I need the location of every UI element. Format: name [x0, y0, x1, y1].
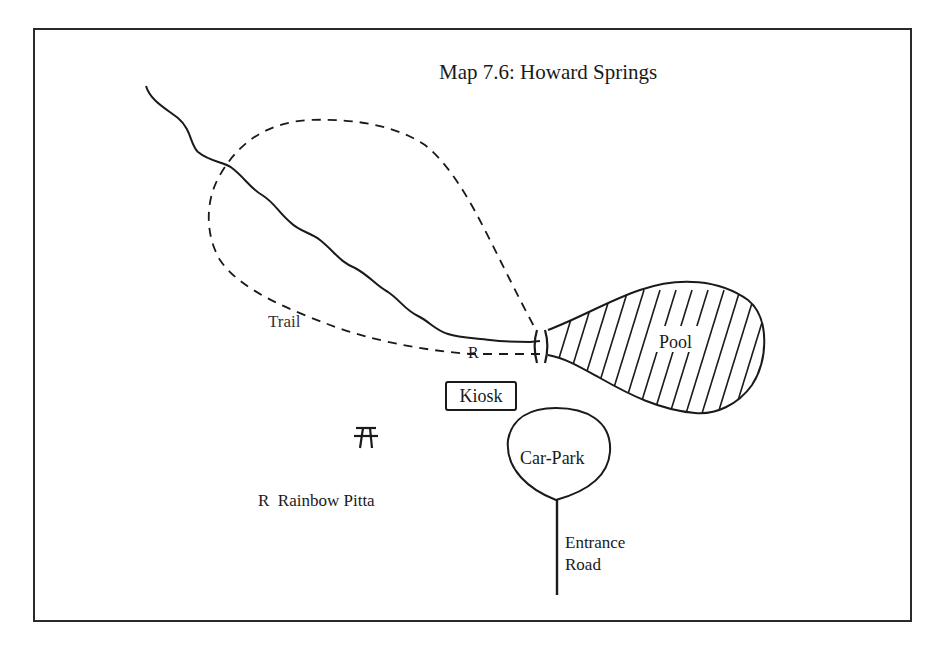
creek-line	[146, 86, 540, 342]
trail-label: Trail	[268, 313, 300, 330]
legend-marker: R	[258, 491, 269, 510]
trail-path	[209, 120, 540, 354]
entrance-road-line2: Road	[565, 554, 625, 576]
rainbow-pitta-marker: R	[468, 345, 479, 361]
map-title: Map 7.6: Howard Springs	[439, 62, 657, 83]
kiosk-label: Kiosk	[445, 381, 517, 411]
pool-label: Pool	[659, 333, 692, 351]
car-park-label: Car-Park	[520, 449, 585, 467]
map-drawing	[0, 0, 942, 651]
legend: R Rainbow Pitta	[258, 492, 375, 509]
picnic-table-icon	[354, 428, 378, 448]
legend-text: Rainbow Pitta	[278, 491, 375, 510]
bridge-icon	[535, 330, 548, 363]
entrance-road-line1: Entrance	[565, 532, 625, 554]
entrance-road-label: Entrance Road	[565, 532, 625, 576]
